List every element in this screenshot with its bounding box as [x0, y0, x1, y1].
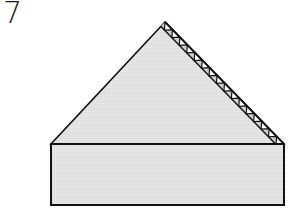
base-rectangle — [51, 144, 284, 205]
folding-diagram — [0, 0, 288, 220]
triangle-flap — [51, 22, 284, 144]
